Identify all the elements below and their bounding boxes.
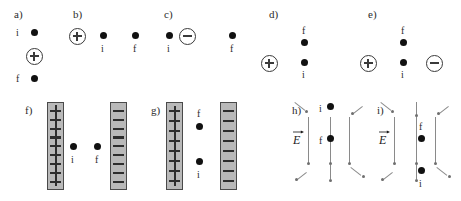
panel-h: h) E i f <box>290 95 375 201</box>
panel-a-initial-tag: i <box>16 28 19 38</box>
panel-i-field-line-right <box>435 117 436 163</box>
panel-g-negative-plate-sign <box>223 157 234 165</box>
panel-e-left-charge-positive <box>360 55 377 72</box>
vector-arrow-icon <box>293 129 304 135</box>
panel-g-positive-plate-sign <box>169 137 180 145</box>
panel-a-label: a) <box>14 8 23 20</box>
sign-horizontal-bar <box>113 163 124 165</box>
panel-h-initial-point <box>327 103 334 110</box>
panel-h-field-label-text: E <box>293 133 300 147</box>
panel-f-positive-plate <box>47 102 64 190</box>
panel-b-final-point <box>132 32 139 39</box>
sign-vertical-bar <box>174 126 176 136</box>
panel-h-arrowhead-lower-center <box>329 179 332 182</box>
panel-g-final-point <box>196 123 203 130</box>
panel-f-final-tag: f <box>95 155 98 165</box>
panel-i-field-label-text: E <box>379 133 386 147</box>
sign-horizontal-bar <box>223 180 234 182</box>
panel-i-arrowhead-lower-right <box>448 175 451 178</box>
panel-f-positive-plate-sign <box>50 142 61 150</box>
panel-f-negative-plate-sign <box>113 177 124 185</box>
sign-vertical-bar <box>55 176 57 186</box>
sign-vertical-bar <box>174 166 176 176</box>
panel-f-positive-plate-sign <box>50 151 61 159</box>
plus-vertical-bar <box>33 52 34 61</box>
panel-e-initial-tag: i <box>401 70 404 80</box>
sign-vertical-bar <box>174 176 176 186</box>
panel-h-arrowhead-lower-right <box>362 175 365 178</box>
panel-e-right-charge-negative <box>426 55 443 72</box>
panel-g-final-tag: f <box>197 109 200 119</box>
sign-horizontal-bar <box>223 130 234 132</box>
panel-f-negative-plate-sign <box>113 169 124 177</box>
panel-g-label: g) <box>151 104 160 116</box>
panel-f-negative-plate-sign <box>113 151 124 159</box>
sign-horizontal-bar <box>113 119 124 121</box>
plus-vertical-bar <box>268 59 269 68</box>
panel-f-positive-plate-sign <box>50 124 61 132</box>
panel-d-initial-tag: i <box>302 70 305 80</box>
panel-g-initial-point <box>196 158 203 165</box>
panel-b-source-charge-positive <box>69 28 86 45</box>
panel-g-positive-plate-sign <box>169 117 180 125</box>
panel-e-initial-point <box>400 59 407 66</box>
panel-c-initial-point <box>166 32 173 39</box>
panel-i-arrowhead-upper-right <box>437 112 440 115</box>
panel-h-arrowhead-lower-left <box>295 178 298 181</box>
panel-i-arrowhead-lower-center <box>415 179 418 182</box>
panel-f-negative-plate-sign <box>113 124 124 132</box>
panel-g-positive-plate-sign <box>169 127 180 135</box>
sign-horizontal-bar <box>223 170 234 172</box>
panel-i-field-line-lower-center <box>416 165 417 179</box>
panel-i-arrowhead-lower-left <box>381 178 384 181</box>
panel-a-source-charge-positive <box>26 48 43 65</box>
panel-a: a) i f <box>0 0 70 95</box>
sign-horizontal-bar <box>113 181 124 183</box>
panel-d-final-tag: f <box>302 26 305 36</box>
panel-f-positive-plate-sign <box>50 177 61 185</box>
panel-f-negative-plate-sign <box>113 106 124 114</box>
panel-h-field-line-left <box>308 117 309 163</box>
panel-f-label: f) <box>25 104 32 116</box>
panel-f-negative-plate-sign <box>113 160 124 168</box>
panel-e-final-tag: f <box>401 26 404 36</box>
panel-g-positive-plate-sign <box>169 147 180 155</box>
sign-horizontal-bar <box>223 150 234 152</box>
panel-c-label: c) <box>164 8 173 20</box>
plus-vertical-bar <box>367 59 368 68</box>
sign-vertical-bar <box>174 136 176 146</box>
sign-horizontal-bar <box>113 172 124 174</box>
sign-vertical-bar <box>174 156 176 166</box>
panel-b-label: b) <box>73 8 82 20</box>
panel-i-label: i) <box>377 104 384 116</box>
panel-i-final-point <box>418 135 425 142</box>
sign-horizontal-bar <box>113 154 124 156</box>
sign-horizontal-bar <box>113 128 124 130</box>
panel-d: d) f i <box>245 0 340 95</box>
panel-f-negative-plate <box>110 102 127 190</box>
panel-b-final-tag: f <box>133 44 136 54</box>
panel-i-initial-point <box>418 167 425 174</box>
minus-horizontal-bar <box>430 62 439 63</box>
panel-a-final-tag: f <box>16 74 19 84</box>
panel-f-positive-plate-sign <box>50 169 61 177</box>
sign-horizontal-bar <box>223 110 234 112</box>
panel-g-positive-plate-sign <box>169 157 180 165</box>
panel-h-arrowhead-left <box>307 162 310 165</box>
panel-g-negative-plate-sign <box>223 147 234 155</box>
sign-vertical-bar <box>174 106 176 116</box>
minus-horizontal-bar <box>183 35 192 36</box>
panel-g-negative-plate-sign <box>223 137 234 145</box>
panel-i-field-line-left <box>394 117 395 163</box>
panel-i-initial-tag: i <box>419 179 422 189</box>
panel-c-final-point <box>229 32 236 39</box>
sign-horizontal-bar <box>223 160 234 162</box>
panel-h-arrowhead-upper-right <box>351 112 354 115</box>
panel-g-negative-plate-sign <box>223 107 234 115</box>
panel-i-field-line-center <box>416 117 417 163</box>
vector-arrow-icon <box>379 129 390 135</box>
panel-f: f) i f <box>0 95 150 201</box>
panel-f-initial-point <box>70 143 77 150</box>
panel-e-final-point <box>400 39 407 46</box>
panel-g-positive-plate-sign <box>169 167 180 175</box>
